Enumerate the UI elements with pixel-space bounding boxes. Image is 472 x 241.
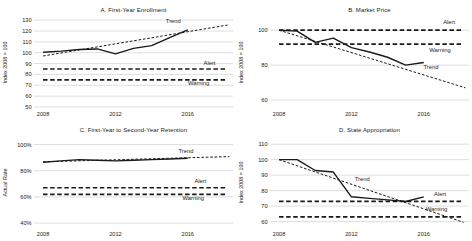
annotation-label-alert: Alert [204, 60, 216, 66]
y-tick-label: 60 [261, 219, 267, 225]
annotation-label-warning: Warning [429, 47, 450, 53]
y-tick-label: 60 [261, 97, 267, 103]
x-tick-label: 2012 [109, 231, 121, 237]
chart-title-retention: C. First-Year to Second-Year Retention [34, 127, 233, 133]
annotation-label-alert: Alert [194, 178, 206, 184]
x-tick-label: 2008 [37, 111, 49, 117]
y-tick-label: 90 [261, 172, 267, 178]
y-axis-label: Index 2008 = 100 [238, 42, 244, 84]
x-tick-label: 2012 [345, 231, 357, 237]
x-tick-label: 2012 [345, 111, 357, 117]
chart-retention: 40%60%80%100%200820122016Actual RateTren… [0, 120, 236, 240]
annotation-label-trend: Trend [178, 148, 193, 154]
panel-market-price: B. Market Price 6080100200820122016Index… [236, 0, 472, 120]
chart-title-enrollment: A. First-Year Enrollment [34, 7, 233, 13]
x-tick-label: 2016 [418, 231, 430, 237]
kpi-dashboard-figure: A. First-Year Enrollment 506070809010011… [0, 0, 472, 241]
y-tick-label: 100 [258, 27, 267, 33]
chart-first-year-enrollment: 5060708090100110120130200820122016Index … [0, 0, 236, 120]
y-tick-label: 100 [258, 157, 267, 163]
y-tick-label: 120 [22, 28, 31, 34]
chart-title-state-appropriation: D. State Appropriation [270, 127, 469, 133]
y-tick-label: 80 [261, 62, 267, 68]
annotation-label-warning: Warning [183, 195, 204, 201]
x-tick-label: 2008 [37, 231, 49, 237]
annotation-label-trend: Trend [355, 176, 370, 182]
panel-state-appropriation: D. State Appropriation 60708090100110200… [236, 120, 472, 240]
annotation-label-alert: Alert [434, 191, 446, 197]
y-axis-label: Actual Rate [2, 169, 8, 197]
annotation-label-trend: Trend [424, 64, 439, 70]
x-tick-label: 2016 [418, 111, 430, 117]
series-line-actual [279, 160, 424, 202]
x-tick-label: 2008 [273, 111, 285, 117]
series-line-trend [43, 25, 228, 56]
chart-market-price: 6080100200820122016Index 2008 = 100Alert… [236, 0, 472, 120]
series-line-trend [279, 30, 465, 88]
y-tick-label: 130 [22, 17, 31, 23]
panel-retention: C. First-Year to Second-Year Retention 4… [0, 120, 236, 240]
x-tick-label: 2016 [182, 111, 194, 117]
y-tick-label: 50 [25, 104, 31, 110]
chart-state-appropriation: 60708090100110200820122016Index 2008 = 1… [236, 120, 472, 240]
annotation-label-warning: Warning [426, 206, 447, 212]
x-tick-label: 2016 [182, 231, 194, 237]
y-tick-label: 110 [259, 141, 268, 147]
panel-first-year-enrollment: A. First-Year Enrollment 506070809010011… [0, 0, 236, 120]
y-tick-label: 90 [25, 61, 31, 67]
annotation-label-alert: Alert [443, 19, 455, 25]
annotation-label-trend: Trend [166, 18, 181, 24]
y-axis-label: Index 2008 = 100 [2, 42, 8, 84]
y-tick-label: 100% [17, 142, 31, 148]
x-tick-label: 2012 [109, 111, 121, 117]
y-tick-label: 70 [25, 82, 31, 88]
annotation-label-warning: Warning [188, 80, 209, 86]
y-tick-label: 60% [20, 194, 31, 200]
y-axis-label: Index 2008 = 100 [238, 162, 244, 204]
series-line-actual [279, 30, 424, 65]
y-tick-label: 40% [20, 220, 31, 226]
x-tick-label: 2008 [273, 231, 285, 237]
y-tick-label: 80% [20, 168, 31, 174]
y-tick-label: 60 [25, 93, 31, 99]
y-tick-label: 110 [23, 39, 32, 45]
y-tick-label: 100 [22, 50, 31, 56]
series-line-trend [43, 157, 229, 162]
chart-title-market-price: B. Market Price [270, 7, 469, 13]
y-tick-label: 80 [261, 188, 267, 194]
y-tick-label: 70 [261, 203, 267, 209]
y-tick-label: 80 [25, 71, 31, 77]
